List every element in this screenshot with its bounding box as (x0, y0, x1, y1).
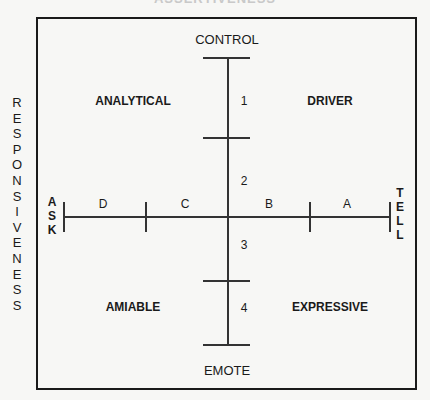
letter: A (48, 195, 57, 209)
letter: S (13, 189, 22, 205)
letter: L (396, 214, 403, 228)
tick (63, 202, 65, 232)
letter: S (13, 126, 22, 142)
tick (203, 344, 250, 346)
quadrant-amiable: AMIABLE (106, 300, 161, 314)
tick (389, 202, 391, 232)
letter: E (13, 267, 22, 283)
letter: K (48, 223, 57, 237)
quadrant-driver: DRIVER (307, 94, 352, 108)
segment-1: 1 (241, 94, 248, 108)
letter: S (13, 298, 22, 314)
control-label: CONTROL (195, 32, 259, 47)
segment-c: C (181, 197, 190, 211)
letter: S (48, 209, 56, 223)
segment-b: B (265, 197, 273, 211)
letter: S (13, 282, 22, 298)
letter: V (13, 220, 22, 236)
tell-label: TELL (396, 186, 404, 242)
emote-label: EMOTE (204, 363, 250, 378)
letter: P (13, 142, 22, 158)
vertical-axis (227, 57, 229, 344)
segment-2: 2 (241, 174, 248, 188)
segment-d: D (99, 197, 108, 211)
letter: E (13, 235, 22, 251)
letter: O (12, 157, 22, 173)
quadrant-expressive: EXPRESSIVE (292, 300, 368, 314)
responsiveness-label: RESPONSIVENESS (8, 95, 26, 313)
letter: T (396, 186, 403, 200)
tick (309, 202, 311, 232)
letter: E (13, 111, 22, 127)
quadrant-analytical: ANALYTICAL (95, 94, 171, 108)
tick (203, 280, 250, 282)
horizontal-axis (63, 216, 389, 218)
letter: I (15, 204, 19, 220)
tick (203, 137, 250, 139)
letter: N (12, 251, 21, 267)
letter: R (12, 95, 21, 111)
ask-label: ASK (48, 195, 57, 237)
tick (203, 57, 250, 59)
cut-off-title: ASSERTIVENESS (0, 0, 430, 6)
segment-3: 3 (241, 238, 248, 252)
segment-a: A (343, 197, 351, 211)
letter: E (396, 200, 404, 214)
segment-4: 4 (241, 301, 248, 315)
tick (145, 202, 147, 232)
letter: N (12, 173, 21, 189)
letter: L (396, 228, 403, 242)
